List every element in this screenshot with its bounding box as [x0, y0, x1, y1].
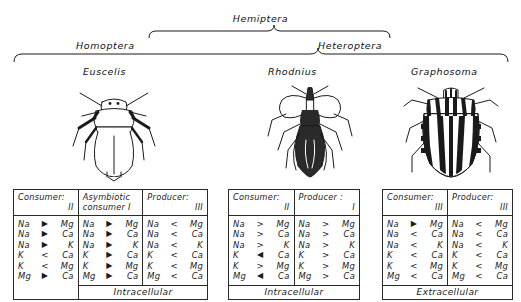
ion-comparison-rows: Na>MgNa>CaNa>KK◀CaK>MgMg◀Ca [229, 216, 294, 285]
table-column: Consumer:IIINa▶MgNa<CaNa<KK<CaK<MgMg<Ca [383, 190, 448, 285]
ion-left: Na [452, 229, 469, 239]
relation-operator: < [164, 219, 184, 229]
ion-left: Na [299, 229, 316, 239]
ion-left: K [452, 261, 469, 271]
ion-left: Mg [83, 271, 100, 281]
relation-operator: < [404, 261, 424, 271]
ion-comparison-row: K▶Ca [83, 250, 139, 261]
relation-operator: > [250, 240, 271, 250]
ion-right: Mg [55, 261, 74, 271]
ion-comparison-rows: Na>MgNa>CaNa>KK>CaK>MgMg>Ca [295, 216, 360, 285]
ion-comparison-row: Na<K [387, 240, 443, 251]
ion-comparison-row: Na▶K [18, 240, 74, 251]
column-header-line1: Consumer: [387, 192, 443, 202]
ion-right: Mg [271, 261, 290, 271]
leafhopper-illustration [58, 84, 170, 184]
ion-comparison-row: K<Ca [18, 250, 74, 261]
ion-comparison-row: K<Mg [18, 261, 74, 272]
ion-left: Na [452, 240, 469, 250]
ion-right: Mg [184, 261, 203, 271]
ion-left: Na [299, 219, 316, 229]
relation-arrow: ▶ [35, 230, 55, 238]
ion-comparison-row: Mg<Ca [147, 271, 203, 282]
column-header-line1: Consumer: [18, 192, 74, 202]
ion-left: Mg [299, 271, 316, 281]
ion-right: Ca [55, 229, 74, 239]
ion-left: Na [387, 240, 404, 250]
relation-operator: < [35, 250, 55, 260]
table-footer-row: Intracellular [14, 285, 207, 299]
ion-left: Mg [18, 271, 35, 281]
relation-operator: < [404, 250, 424, 260]
ion-comparison-row: K▶Mg [83, 261, 139, 272]
table-column: Producer :INa>MgNa>CaNa>KK>CaK>MgMg>Ca [295, 190, 360, 285]
ion-right: Ca [55, 271, 74, 281]
relation-operator: > [316, 250, 337, 260]
ion-left: K [387, 250, 404, 260]
ion-left: Na [233, 219, 250, 229]
ion-right: Ca [489, 250, 508, 260]
column-header: Producer :I [295, 190, 360, 216]
table-column: Consumer:IINa>MgNa>CaNa>KK◀CaK>MgMg◀Ca [229, 190, 295, 285]
relation-operator: < [469, 250, 489, 260]
ion-comparison-row: K<Ca [387, 250, 443, 261]
ion-right: Mg [424, 219, 443, 229]
column-header-line2: II [18, 202, 74, 212]
ion-comparison-row: Mg>Ca [299, 271, 356, 282]
ion-comparison-rows: Na▶MgNa<CaNa<KK<CaK<MgMg<Ca [383, 216, 447, 285]
table-columns: Consumer:IIINa▶MgNa<CaNa<KK<CaK<MgMg<CaP… [383, 190, 512, 285]
relation-operator: < [404, 271, 424, 281]
relation-operator: > [316, 240, 337, 250]
table-columns: Consumer:IINa▶MgNa▶CaNa▶KK<CaK<MgMg▶CaAs… [14, 190, 207, 285]
ion-right: Ca [184, 250, 203, 260]
ion-left: Na [83, 229, 100, 239]
ion-comparison-row: K>Ca [299, 250, 356, 261]
ion-comparison-row: K>Mg [233, 261, 290, 272]
relation-operator: > [316, 219, 337, 229]
ion-comparison-row: K<Ca [147, 250, 203, 261]
ion-left: K [83, 250, 100, 260]
table-column: Producer:IIINa<MgNa<CaNa<KK<CaK<MgMg<Ca [448, 190, 512, 285]
comparison-table-euscelis: Consumer:IINa▶MgNa▶CaNa▶KK<CaK<MgMg▶CaAs… [13, 189, 208, 300]
ion-left: Na [233, 240, 250, 250]
ion-comparison-row: Na>K [233, 240, 290, 251]
column-header-line1: Producer: [147, 192, 203, 202]
shield-bug-illustration [400, 84, 502, 184]
species-label-rhodnius: Rhodnius [268, 66, 317, 77]
ion-comparison-row: Mg<Ca [452, 271, 508, 282]
table-footer-label: Intracellular [229, 285, 359, 299]
comparison-table-rhodnius: Consumer:IINa>MgNa>CaNa>KK◀CaK>MgMg◀CaPr… [228, 189, 360, 300]
ion-comparison-row: Na<Ca [147, 229, 203, 240]
ion-comparison-rows: Na▶MgNa▶CaNa▶KK<CaK<MgMg▶Ca [14, 216, 78, 285]
column-header-line1: Producer : [299, 192, 356, 202]
column-header: Consumer:II [229, 190, 294, 216]
relation-operator: > [250, 261, 271, 271]
ion-right: Mg [336, 261, 355, 271]
ion-left: Na [387, 219, 404, 229]
ion-left: Na [18, 219, 35, 229]
relation-arrow: ▶ [100, 241, 120, 249]
relation-arrow: ▶ [35, 220, 55, 228]
table-footer-row: Extracellular [383, 285, 512, 299]
ion-comparison-row: K<Mg [147, 261, 203, 272]
relation-operator: < [404, 240, 424, 250]
ion-right: K [55, 240, 74, 250]
relation-arrow: ▶ [100, 272, 120, 280]
ion-right: Ca [424, 271, 443, 281]
ion-comparison-row: Na<Mg [452, 219, 508, 230]
ion-right: K [336, 240, 355, 250]
ion-comparison-row: Mg▶Ca [18, 271, 74, 282]
ion-right: K [271, 240, 290, 250]
table-column: Asymbioticconsumer INa▶MgNa▶CaNa▶KK▶CaK▶… [79, 190, 144, 285]
ion-left: K [18, 250, 35, 260]
ion-comparison-rows: Na<MgNa<CaNa<KK<CaK<MgMg<Ca [448, 216, 512, 285]
ion-right: Ca [55, 250, 74, 260]
relation-operator: < [35, 261, 55, 271]
ion-right: Ca [184, 229, 203, 239]
column-header: Consumer:II [14, 190, 78, 216]
relation-operator: > [250, 229, 271, 239]
column-header: Producer:III [448, 190, 512, 216]
relation-operator: < [164, 250, 184, 260]
taxon-label-homoptera: Homoptera [76, 40, 135, 51]
ion-right: Ca [119, 271, 138, 281]
